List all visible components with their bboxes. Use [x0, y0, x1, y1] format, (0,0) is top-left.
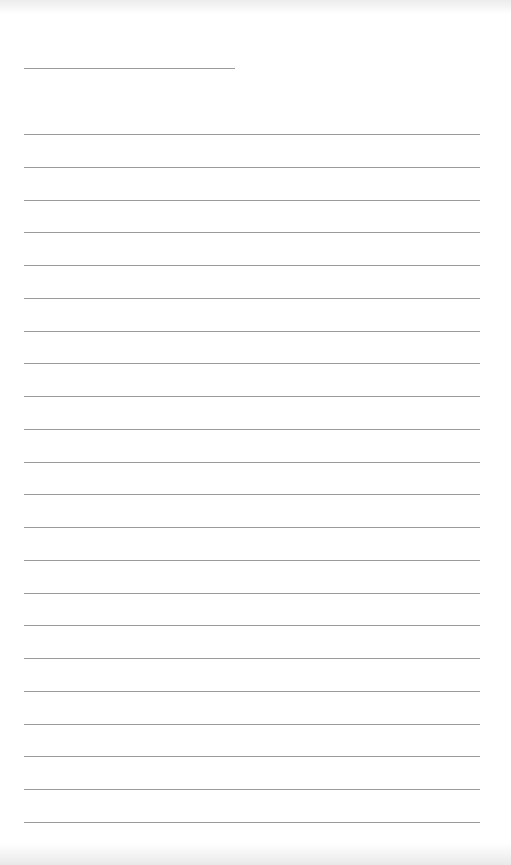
ruled-line: [24, 822, 480, 823]
ruled-line: [24, 756, 480, 757]
ruled-line: [24, 527, 480, 528]
ruled-line: [24, 625, 480, 626]
bottom-shadow-band: [0, 843, 511, 865]
ruled-line: [24, 298, 480, 299]
ruled-line: [24, 560, 480, 561]
ruled-line: [24, 134, 480, 135]
ruled-line: [24, 462, 480, 463]
ruled-line: [24, 331, 480, 332]
ruled-line: [24, 429, 480, 430]
header-line: [24, 68, 235, 69]
ruled-line: [24, 200, 480, 201]
ruled-line: [24, 265, 480, 266]
ruled-line: [24, 691, 480, 692]
ruled-line: [24, 396, 480, 397]
ruled-line: [24, 724, 480, 725]
ruled-line: [24, 232, 480, 233]
ruled-line: [24, 167, 480, 168]
ruled-line: [24, 363, 480, 364]
lined-paper-page: [0, 0, 511, 865]
ruled-line: [24, 658, 480, 659]
ruled-line: [24, 494, 480, 495]
ruled-line: [24, 789, 480, 790]
ruled-line: [24, 593, 480, 594]
